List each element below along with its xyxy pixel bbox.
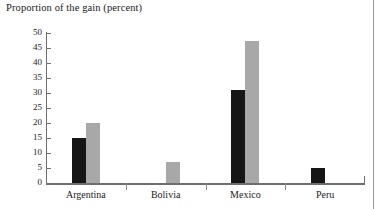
category-separator-tick	[206, 183, 207, 190]
y-axis-tick-label: 30	[33, 88, 42, 97]
x-axis-label: Peru	[316, 188, 334, 201]
x-axis-label: Argentina	[66, 188, 106, 201]
chart-figure: Proportion of the gain (percent) 0510152…	[0, 0, 391, 209]
y-axis-tick-label: 5	[38, 163, 43, 172]
x-axis-label: Bolivia	[151, 188, 180, 201]
y-axis-tick-label: 25	[33, 103, 42, 112]
bar-group	[46, 33, 126, 183]
y-axis-tick-label: 45	[33, 43, 42, 52]
category-separator-tick	[126, 183, 127, 190]
bar	[245, 41, 259, 184]
category-separator-tick	[285, 183, 286, 190]
bar-group-bars	[152, 33, 180, 183]
x-axis-label: Mexico	[230, 188, 261, 201]
y-axis-tick-label: 0	[38, 178, 43, 187]
y-axis-tick-label: 20	[33, 118, 42, 127]
y-axis-tick-label: 15	[33, 133, 42, 142]
plot-area: 05101520253035404550	[46, 33, 365, 183]
y-axis-tick-label: 35	[33, 73, 42, 82]
bar	[231, 90, 245, 183]
page-edge-rule	[373, 0, 374, 209]
bar	[311, 168, 325, 183]
y-axis-tick-label: 50	[33, 28, 42, 37]
bar	[86, 123, 100, 183]
bar-group	[126, 33, 206, 183]
bar-group-bars	[72, 33, 100, 183]
bar	[72, 138, 86, 183]
bar	[166, 162, 180, 183]
bar-group-bars	[311, 33, 339, 183]
chart-title: Proportion of the gain (percent)	[6, 1, 142, 14]
y-axis-tick-label: 40	[33, 58, 42, 67]
bar-group-bars	[231, 33, 259, 183]
bar-group	[206, 33, 286, 183]
bar-group	[285, 33, 365, 183]
y-axis-tick-label: 10	[33, 148, 42, 157]
